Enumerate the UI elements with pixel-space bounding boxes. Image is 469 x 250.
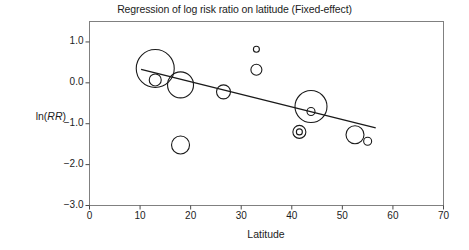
data-points xyxy=(136,46,371,154)
data-point-1 xyxy=(149,74,161,86)
x-tick-label-7: 70 xyxy=(429,210,459,221)
data-point-2 xyxy=(168,72,194,98)
data-point-11 xyxy=(346,126,364,144)
data-point-4 xyxy=(217,85,231,99)
data-point-12 xyxy=(364,137,372,145)
x-tick-label-2: 20 xyxy=(176,210,206,221)
x-tick-label-3: 30 xyxy=(226,210,256,221)
data-point-6 xyxy=(251,64,262,75)
x-tick-label-6: 60 xyxy=(378,210,408,221)
x-tick-label-0: 0 xyxy=(75,210,105,221)
axis-ticks xyxy=(86,42,444,210)
y-tick-label-2: −1.0 xyxy=(50,117,84,128)
y-tick-label-4: −3.0 xyxy=(50,199,84,210)
x-tick-label-1: 10 xyxy=(125,210,155,221)
y-tick-label-1: 0.0 xyxy=(50,76,84,87)
data-point-7 xyxy=(295,91,327,123)
x-tick-label-5: 50 xyxy=(327,210,357,221)
data-point-9 xyxy=(293,125,306,138)
x-tick-label-4: 40 xyxy=(277,210,307,221)
regression-line xyxy=(141,69,376,127)
data-point-10 xyxy=(296,129,302,135)
data-point-3 xyxy=(172,136,190,154)
data-point-0 xyxy=(136,50,174,88)
plot-frame xyxy=(90,22,444,206)
regression-line-segment xyxy=(141,69,376,127)
y-tick-label-0: 1.0 xyxy=(50,35,84,46)
y-tick-label-3: −2.0 xyxy=(50,158,84,169)
data-point-5 xyxy=(253,46,259,52)
plot-frame-box xyxy=(90,22,444,206)
chart-figure: Regression of log risk ratio on latitude… xyxy=(0,0,469,250)
